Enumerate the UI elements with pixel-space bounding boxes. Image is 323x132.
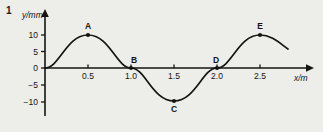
x-tick-label-1-0: 1.0 [125,71,137,81]
y-tick-label-0: 0 [33,63,38,73]
x-axis-label: x/m [293,73,308,83]
point-label-e: E [257,21,263,31]
x-tick-label-2-5: 2.5 [254,71,266,81]
y-axis-label: y/mm [21,10,43,20]
point-label-d: D [213,55,219,65]
point-label-b: B [131,55,137,65]
point-label-c: C [171,104,177,114]
point-marker-b [129,66,133,70]
wave-graph: 10 5 0 −5 −10 0.5 1.0 1.5 2.0 2.5 y/mm x… [0,0,323,132]
point-marker-c [172,99,176,103]
x-tick-label-0-5: 0.5 [82,71,94,81]
point-marker-d [215,66,219,70]
y-tick-label-10: 10 [29,30,39,40]
point-marker-e [258,33,262,37]
x-tick-label-1-5: 1.5 [168,71,180,81]
point-label-a: A [85,21,91,31]
y-tick-label-5: 5 [33,47,38,57]
x-axis-arrow [306,64,314,72]
figure-panel: 1 10 5 0 −5 −10 0.5 1.0 [0,0,323,132]
point-marker-a [86,33,90,37]
y-tick-label-neg5: −5 [28,80,38,90]
y-tick-label-neg10: −10 [24,97,39,107]
x-tick-label-2-0: 2.0 [211,71,223,81]
